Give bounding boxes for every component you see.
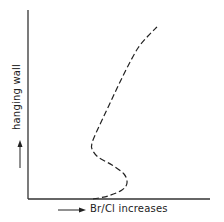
x-direction-arrow-icon bbox=[58, 208, 86, 213]
chart-figure: Br/Cl increases hanging wall bbox=[0, 0, 224, 222]
br-cl-profile-curve bbox=[91, 27, 157, 199]
y-axis-label: hanging wall bbox=[11, 64, 22, 130]
x-axis-label: Br/Cl increases bbox=[90, 203, 168, 214]
y-direction-arrow-icon bbox=[18, 140, 23, 168]
chart-canvas bbox=[0, 0, 224, 222]
